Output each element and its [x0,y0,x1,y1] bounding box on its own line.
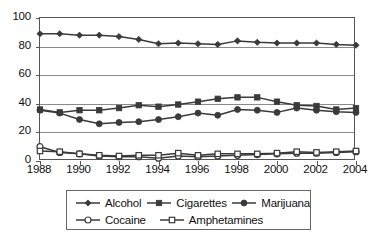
marker-amphetamines-2001 [294,149,299,154]
legend-glyph-filled-diamond [85,199,91,205]
legend-glyph-filled-circle [241,200,247,206]
marker-alcohol-1996 [195,41,201,47]
marker-marijuana-1994 [156,117,162,123]
marker-marijuana-1992 [116,119,122,125]
marker-amphetamines-1990 [77,151,82,156]
x-tick-label-1988: 1988 [27,163,51,175]
legend-item-marijuana[interactable]: Marijuana [231,197,310,209]
legend-label-alcohol: Alcohol [105,197,141,209]
marker-cigarettes-1992 [116,105,121,110]
marker-alcohol-1999 [254,39,260,45]
marker-marijuana-1988 [37,107,43,113]
legend-marker-filled-diamond [75,197,101,209]
marker-alcohol-2003 [333,41,339,47]
marker-alcohol-1994 [155,41,161,47]
marker-amphetamines-2003 [334,149,339,154]
marker-marijuana-1993 [136,119,142,125]
legend-glyph-open-circle [85,217,91,223]
marker-cigarettes-2000 [274,99,279,104]
legend-item-amphetamines[interactable]: Amphetamines [159,214,263,226]
marker-amphetamines-1991 [97,153,102,158]
marker-cigarettes-1995 [176,102,181,107]
x-tick-label-1996: 1996 [185,163,209,175]
legend-item-alcohol[interactable]: Alcohol [75,197,141,209]
marker-alcohol-2002 [313,40,319,46]
legend-marker-filled-circle [231,197,257,209]
marker-marijuana-1998 [235,107,241,113]
series-marijuana [37,105,359,127]
marker-amphetamines-1988 [37,148,42,153]
y-tick-label-100: 100 [0,11,31,22]
marker-alcohol-1993 [136,36,142,42]
marker-cigarettes-1994 [156,104,161,109]
marker-cigarettes-1991 [97,108,102,113]
marker-marijuana-1990 [77,117,83,123]
plot-area [39,17,355,160]
marker-alcohol-1988 [37,31,43,37]
marker-alcohol-2004 [353,42,359,48]
marker-alcohol-1995 [175,40,181,46]
marker-amphetamines-2004 [353,148,358,153]
marker-amphetamines-1994 [156,153,161,158]
marker-alcohol-1989 [57,31,63,37]
x-tick-label-1992: 1992 [106,163,130,175]
marker-amphetamines-1999 [255,151,260,156]
marker-marijuana-1999 [254,107,260,113]
y-tick-label-80: 80 [0,40,31,51]
marker-marijuana-2002 [314,107,320,113]
marker-marijuana-2004 [353,109,359,115]
marker-marijuana-1997 [215,112,221,118]
marker-cigarettes-1998 [235,95,240,100]
marker-amphetamines-1997 [215,151,220,156]
legend-label-marijuana: Marijuana [261,197,310,209]
marker-amphetamines-1993 [136,153,141,158]
marker-cigarettes-1990 [77,108,82,113]
legend-label-cigarettes: Cigarettes [176,197,226,209]
x-tick-label-1990: 1990 [66,163,90,175]
x-tick-label-2004: 2004 [343,163,367,175]
marker-amphetamines-1995 [176,150,181,155]
legend-row-1: AlcoholCigarettesMarijuana [67,194,310,211]
marker-alcohol-1990 [76,32,82,38]
marker-alcohol-1992 [116,33,122,39]
marker-amphetamines-1989 [57,149,62,154]
marker-marijuana-2001 [294,105,300,111]
series-alcohol [37,31,359,49]
legend-item-cigarettes[interactable]: Cigarettes [146,197,226,209]
y-tick-label-60: 60 [0,68,31,79]
marker-alcohol-2000 [274,40,280,46]
marker-amphetamines-2000 [274,150,279,155]
marker-marijuana-1996 [195,110,201,116]
marker-cigarettes-1993 [136,103,141,108]
chart-legend: AlcoholCigarettesMarijuanaCocaineAmpheta… [66,190,311,230]
marker-amphetamines-1998 [235,151,240,156]
marker-marijuana-1989 [57,110,63,116]
marker-cigarettes-1996 [195,99,200,104]
series-layer [40,18,356,161]
legend-label-amphetamines: Amphetamines [189,214,263,226]
y-tick-label-20: 20 [0,125,31,136]
marker-marijuana-2000 [274,109,280,115]
marker-cigarettes-1997 [215,96,220,101]
x-tick-label-2002: 2002 [303,163,327,175]
legend-marker-open-square [159,214,185,226]
marker-amphetamines-1992 [116,153,121,158]
marker-alcohol-1998 [234,38,240,44]
marker-amphetamines-1996 [195,153,200,158]
legend-label-cocaine: Cocaine [105,214,146,226]
marker-alcohol-2001 [294,40,300,46]
marker-cigarettes-1999 [255,95,260,100]
legend-row-2: CocaineAmphetamines [67,211,310,228]
x-tick-label-1994: 1994 [145,163,169,175]
legend-glyph-filled-square [157,200,162,205]
legend-marker-filled-square [146,197,172,209]
x-tick-label-1998: 1998 [224,163,248,175]
line-chart: 020406080100 198819901992199419961998200… [0,0,373,237]
legend-marker-open-circle [75,214,101,226]
marker-marijuana-1991 [96,121,102,127]
marker-marijuana-1995 [175,114,181,120]
x-tick-label-2000: 2000 [264,163,288,175]
marker-marijuana-2003 [333,109,339,115]
legend-item-cocaine[interactable]: Cocaine [75,214,146,226]
legend-glyph-open-square [169,217,174,222]
